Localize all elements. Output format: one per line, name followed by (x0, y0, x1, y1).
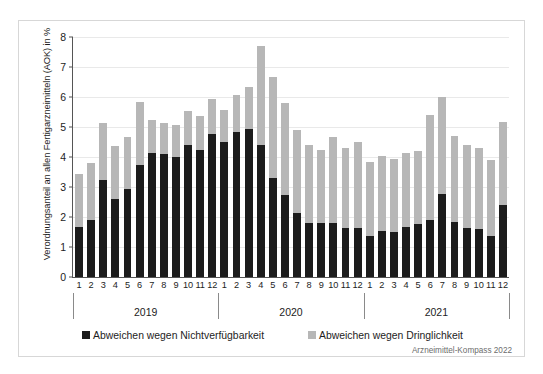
bar-segment-dringlichkeit (196, 116, 204, 150)
y-tick-label: 0 (60, 272, 66, 283)
bar-segment-nichtverfuegbarkeit (378, 231, 386, 277)
bar-stack[interactable] (475, 148, 483, 277)
bar-stack[interactable] (378, 156, 386, 278)
bar-stack[interactable] (87, 163, 95, 277)
bar-segment-dringlichkeit (475, 148, 483, 229)
x-tick-label: 10 (328, 279, 338, 291)
bar-segment-nichtverfuegbarkeit (366, 236, 374, 277)
bar-segment-nichtverfuegbarkeit (196, 150, 204, 277)
x-axis-month-labels: 1234567891011121234567891011121234567891… (73, 279, 509, 293)
bar-segment-nichtverfuegbarkeit (87, 220, 95, 277)
bar-segment-dringlichkeit (75, 174, 83, 226)
bar-stack[interactable] (233, 95, 241, 277)
bar-segment-dringlichkeit (208, 99, 216, 134)
y-tick-label: 5 (60, 122, 66, 133)
bar-stack[interactable] (220, 110, 228, 277)
bar-stack[interactable] (390, 159, 398, 277)
bar-stack[interactable] (172, 125, 180, 277)
bar-segment-nichtverfuegbarkeit (499, 205, 507, 277)
bar-stack[interactable] (487, 160, 495, 277)
bar-stack[interactable] (317, 150, 325, 278)
bar-segment-dringlichkeit (329, 137, 337, 223)
x-tick-label: 7 (149, 279, 154, 291)
legend-item-dringlichkeit[interactable]: Abweichen wegen Dringlichkeit (308, 330, 463, 341)
bar-stack[interactable] (196, 116, 204, 277)
y-axis-title: Verordnungsanteil an allen Fertigarzneim… (42, 19, 52, 269)
bar-stack[interactable] (463, 145, 471, 277)
bar-stack[interactable] (402, 153, 410, 277)
bar-stack[interactable] (414, 151, 422, 277)
gray-square-icon (308, 331, 316, 339)
bar-segment-dringlichkeit (426, 115, 434, 220)
bar-stack[interactable] (257, 46, 265, 277)
bar-stack[interactable] (184, 111, 192, 278)
bar-segment-dringlichkeit (317, 150, 325, 224)
bar-segment-nichtverfuegbarkeit (99, 180, 107, 278)
bar-stack[interactable] (354, 142, 362, 277)
bar-segment-dringlichkeit (451, 136, 459, 222)
bar-stack[interactable] (148, 120, 156, 277)
x-tick-label: 5 (416, 279, 421, 291)
bar-stack[interactable] (499, 122, 507, 277)
bar-segment-dringlichkeit (124, 137, 132, 189)
bar-stack[interactable] (366, 162, 374, 277)
bar-segment-nichtverfuegbarkeit (172, 157, 180, 277)
bar-segment-nichtverfuegbarkeit (220, 142, 228, 277)
bar-stack[interactable] (111, 146, 119, 277)
bar-segment-nichtverfuegbarkeit (317, 223, 325, 277)
gridline (73, 37, 509, 38)
bar-stack[interactable] (329, 137, 337, 277)
bar-segment-nichtverfuegbarkeit (148, 153, 156, 277)
bar-segment-nichtverfuegbarkeit (136, 165, 144, 277)
y-tick-label: 3 (60, 182, 66, 193)
bar-stack[interactable] (293, 130, 301, 277)
bar-stack[interactable] (438, 97, 446, 277)
legend-item-nichtverfuegbarkeit[interactable]: Abweichen wegen Nichtverfügbarkeit (82, 330, 264, 341)
bar-stack[interactable] (99, 123, 107, 278)
bar-stack[interactable] (342, 148, 350, 277)
bar-segment-nichtverfuegbarkeit (402, 227, 410, 277)
y-tick-label: 1 (60, 242, 66, 253)
chart-legend: Abweichen wegen Nichtverfügbarkeit Abwei… (19, 327, 526, 343)
bar-stack[interactable] (124, 137, 132, 277)
bar-segment-dringlichkeit (463, 145, 471, 228)
bar-stack[interactable] (136, 102, 144, 277)
x-tick-label: 8 (452, 279, 457, 291)
x-tick-label: 2 (89, 279, 94, 291)
year-separator (509, 293, 510, 319)
plot-inner: 012345678 (73, 37, 509, 277)
bar-stack[interactable] (426, 115, 434, 277)
x-tick-label: 12 (207, 279, 217, 291)
bar-segment-dringlichkeit (136, 102, 144, 166)
bar-stack[interactable] (305, 145, 313, 277)
year-separator (73, 293, 74, 319)
bar-segment-dringlichkeit (293, 130, 301, 213)
bar-segment-dringlichkeit (390, 159, 398, 232)
x-tick-label: 8 (161, 279, 166, 291)
y-tick-label: 8 (60, 32, 66, 43)
x-tick-label: 1 (76, 279, 81, 291)
bar-stack[interactable] (451, 136, 459, 277)
x-tick-label: 10 (474, 279, 484, 291)
bar-segment-dringlichkeit (257, 46, 265, 145)
bar-stack[interactable] (208, 99, 216, 278)
bar-segment-nichtverfuegbarkeit (438, 194, 446, 277)
bar-segment-dringlichkeit (342, 148, 350, 228)
bar-stack[interactable] (75, 174, 83, 277)
bar-stack[interactable] (281, 103, 289, 277)
bar-segment-nichtverfuegbarkeit (487, 236, 495, 277)
bar-stack[interactable] (160, 123, 168, 278)
x-axis-line (72, 277, 509, 278)
x-tick-label: 1 (367, 279, 372, 291)
y-tick-label: 6 (60, 92, 66, 103)
bar-segment-dringlichkeit (160, 123, 168, 155)
bar-segment-dringlichkeit (99, 123, 107, 180)
bar-segment-dringlichkeit (499, 122, 507, 205)
x-tick-label: 4 (258, 279, 263, 291)
bar-segment-dringlichkeit (402, 153, 410, 227)
bar-stack[interactable] (245, 87, 253, 277)
x-tick-label: 3 (101, 279, 106, 291)
bar-segment-nichtverfuegbarkeit (414, 224, 422, 277)
bar-stack[interactable] (269, 77, 277, 277)
bar-segment-dringlichkeit (184, 111, 192, 146)
